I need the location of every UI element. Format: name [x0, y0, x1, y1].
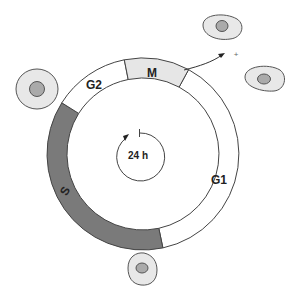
nucleus — [258, 74, 271, 84]
cell-top-right-1 — [203, 15, 242, 40]
mitosis-arrow — [184, 55, 222, 70]
label-g1: G1 — [211, 173, 227, 187]
label-m: M — [147, 66, 157, 80]
cell-bottom — [128, 253, 157, 285]
label-g2: G2 — [86, 78, 102, 92]
cell-cycle-diagram: M G1 S G2 24 h + — [0, 0, 294, 293]
cell-left — [16, 69, 58, 109]
center-duration-label: 24 h — [128, 150, 148, 161]
phase-s-segment — [47, 103, 163, 250]
nucleus — [216, 21, 228, 32]
nucleus — [30, 82, 45, 97]
phase-g1-segment — [159, 70, 239, 248]
division-plus: + — [234, 50, 239, 59]
cell-top-right-2 — [245, 66, 285, 91]
nucleus — [136, 263, 148, 273]
